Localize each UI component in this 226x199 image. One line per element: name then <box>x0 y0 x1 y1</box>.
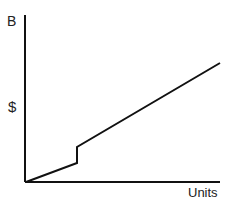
x-axis-label: Units <box>188 186 218 199</box>
chart-canvas <box>0 0 226 199</box>
y-axis-label: $ <box>8 100 16 114</box>
top-label: B <box>7 14 16 28</box>
cost-line <box>26 63 220 182</box>
